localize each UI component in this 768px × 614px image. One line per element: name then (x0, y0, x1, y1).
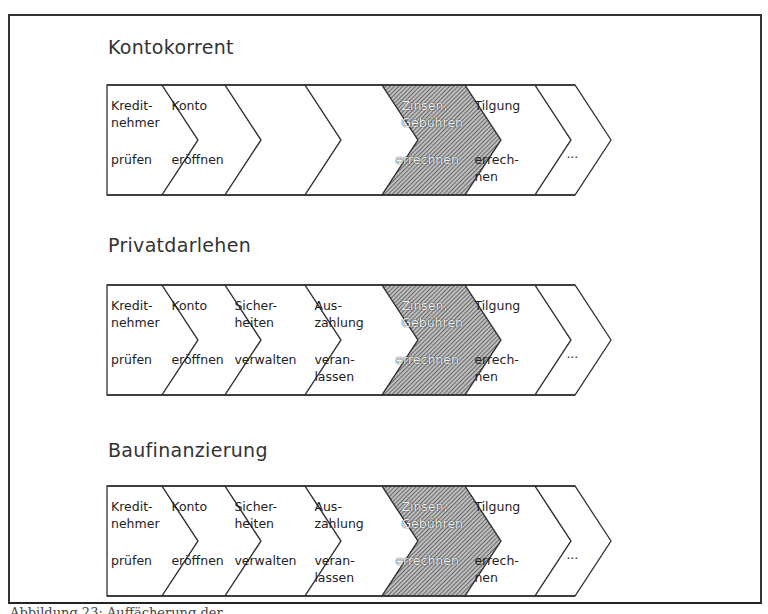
step-label-bottom: prüfen (111, 552, 152, 569)
step-label-top: Kredit-nehmer (111, 498, 160, 532)
value-chain-privatdarlehen: Kredit-nehmerprüfenKontoeröffnenSicher-h… (100, 283, 617, 397)
step-label-bottom: eröffnen (171, 351, 223, 368)
step-label-top: Zinsen,Gebühren (401, 297, 463, 331)
step-label-top: Aus-zahlung (314, 297, 363, 331)
step-label-bottom: prüfen (111, 151, 152, 168)
row-title-baufinanzierung: Baufinanzierung (108, 439, 268, 461)
step-label-top: Konto (171, 498, 207, 515)
step-label-top: Kredit-nehmer (111, 297, 160, 331)
step-ellipsis: ... (566, 145, 578, 162)
step-label-bottom: verwalten (234, 552, 296, 569)
step-label-bottom: prüfen (111, 351, 152, 368)
step-label-bottom: errech-nen (474, 351, 518, 385)
value-chain-kontokorrent: Kredit-nehmerprüfenKontoeröffnenZinsen,G… (100, 83, 617, 197)
step-label-top: Tilgung (474, 297, 520, 314)
step-label-bottom: errechnen (395, 552, 459, 569)
step-label-top: Sicher-heiten (234, 498, 277, 532)
step-ellipsis: ... (566, 546, 578, 563)
step-label-bottom: errechnen (395, 351, 459, 368)
step-label-bottom: eröffnen (171, 151, 223, 168)
step-label-top: Konto (171, 297, 207, 314)
step-label-bottom: errech-nen (474, 151, 518, 185)
step-label-top: Tilgung (474, 97, 520, 114)
step-label-bottom: errech-nen (474, 552, 518, 586)
step-label-bottom: errechnen (395, 151, 459, 168)
step-label-top: Tilgung (474, 498, 520, 515)
value-chain-baufinanzierung: Kredit-nehmerprüfenKontoeröffnenSicher-h… (100, 484, 617, 598)
step-ellipsis: ... (566, 345, 578, 362)
step-label-top: Sicher-heiten (234, 297, 277, 331)
step-label-bottom: veran-lassen (314, 552, 354, 586)
step-label-bottom: eröffnen (171, 552, 223, 569)
step-label-top: Konto (171, 97, 207, 114)
figure-caption: Abbildung 23: Auffächerung der ... (10, 606, 239, 614)
step-label-top: Kredit-nehmer (111, 97, 160, 131)
row-title-kontokorrent: Kontokorrent (108, 36, 234, 58)
step-label-top: Aus-zahlung (314, 498, 363, 532)
step-label-top: Zinsen,Gebühren (401, 498, 463, 532)
step-label-bottom: veran-lassen (314, 351, 354, 385)
step-label-top: Zinsen,Gebühren (401, 97, 463, 131)
step-label-bottom: verwalten (234, 351, 296, 368)
row-title-privatdarlehen: Privatdarlehen (108, 234, 251, 256)
